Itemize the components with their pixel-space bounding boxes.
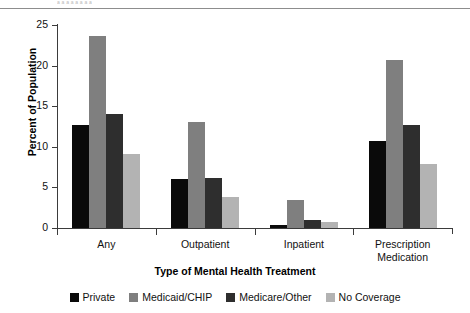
y-axis-tick	[52, 106, 57, 107]
x-axis-tick-label-line: Medication	[338, 251, 468, 264]
cropped-caption-fragment: a a a a a a a a	[57, 0, 92, 5]
chart-figure: a a a a a a a a Percent of Population Ty…	[0, 0, 470, 313]
y-axis-tick-label: 5	[18, 180, 48, 192]
bar-medicaid-chip-any	[89, 36, 106, 228]
x-axis-tick-label: PrescriptionMedication	[338, 238, 468, 263]
x-axis-category-tick	[353, 228, 354, 235]
legend: PrivateMedicaid/CHIPMedicare/OtherNo Cov…	[0, 291, 470, 303]
bar-medicare-other-prescription-medication	[403, 125, 420, 228]
legend-label: Medicare/Other	[239, 291, 311, 303]
bar-no-coverage-prescription-medication	[420, 164, 437, 228]
y-axis-tick-label: 20	[18, 59, 48, 71]
y-axis-tick-label: 25	[18, 18, 48, 30]
y-axis-tick	[52, 147, 57, 148]
y-axis-tick-label: 15	[18, 99, 48, 111]
bar-private-prescription-medication	[369, 141, 386, 228]
x-axis-category-tick	[255, 228, 256, 235]
legend-label: Private	[83, 291, 116, 303]
bar-private-inpatient	[270, 225, 287, 228]
bar-medicaid-chip-inpatient	[287, 200, 304, 228]
bar-no-coverage-inpatient	[321, 222, 338, 228]
bar-medicare-other-any	[106, 114, 123, 228]
y-axis-tick-label: 10	[18, 140, 48, 152]
bar-private-outpatient	[171, 179, 188, 228]
x-axis-title: Type of Mental Health Treatment	[0, 265, 470, 277]
y-axis-tick	[52, 66, 57, 67]
y-axis-tick	[52, 187, 57, 188]
bar-medicare-other-outpatient	[205, 178, 222, 228]
x-axis-category-tick	[57, 228, 58, 235]
bar-medicare-other-inpatient	[304, 220, 321, 228]
legend-swatch-icon	[226, 293, 235, 302]
bar-no-coverage-outpatient	[222, 197, 239, 228]
y-axis-tick	[52, 25, 57, 26]
bar-no-coverage-any	[123, 154, 140, 228]
top-divider-rule	[0, 8, 470, 9]
legend-swatch-icon	[70, 293, 79, 302]
legend-item-medicaid-chip[interactable]: Medicaid/CHIP	[129, 291, 212, 303]
bar-medicaid-chip-prescription-medication	[386, 60, 403, 228]
y-axis-tick-label: 0	[18, 221, 48, 233]
legend-label: Medicaid/CHIP	[142, 291, 212, 303]
legend-item-private[interactable]: Private	[70, 291, 116, 303]
legend-item-no-coverage[interactable]: No Coverage	[326, 291, 401, 303]
bar-private-any	[72, 125, 89, 228]
legend-swatch-icon	[129, 293, 138, 302]
legend-item-medicare-other[interactable]: Medicare/Other	[226, 291, 311, 303]
x-axis-tick-label-line: Prescription	[338, 238, 468, 251]
bar-medicaid-chip-outpatient	[188, 122, 205, 228]
x-axis-right-cap	[452, 228, 453, 234]
legend-swatch-icon	[326, 293, 335, 302]
legend-label: No Coverage	[339, 291, 401, 303]
x-axis-category-tick	[156, 228, 157, 235]
